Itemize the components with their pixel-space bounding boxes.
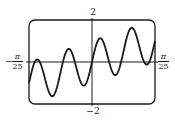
x-min-numerator: π xyxy=(15,52,20,61)
x-min-label: π 25 xyxy=(12,52,23,71)
x-max-numerator: π xyxy=(161,52,166,61)
x-min-denominator: 25 xyxy=(12,62,22,71)
y-min-label: −2 xyxy=(85,107,101,116)
x-max-denominator: 25 xyxy=(158,62,168,71)
x-max-label: π 25 xyxy=(158,52,169,71)
y-max-label: 2 xyxy=(88,8,98,17)
plot-area xyxy=(0,0,175,121)
